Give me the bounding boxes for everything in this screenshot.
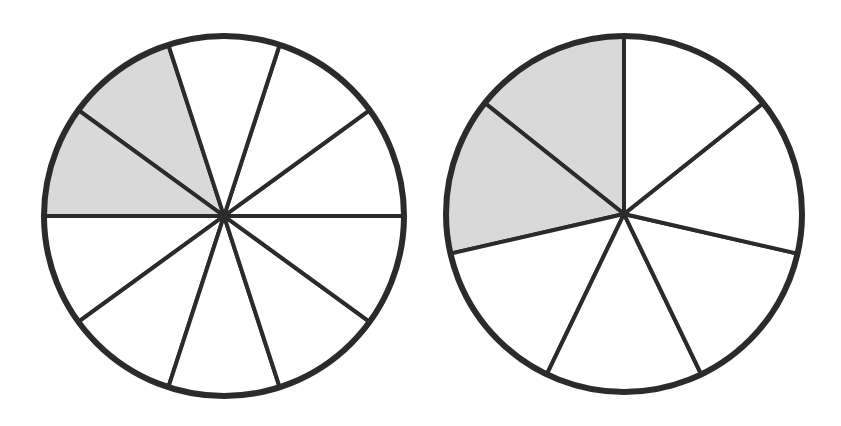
center-point xyxy=(621,211,627,217)
center-point xyxy=(221,213,227,219)
fraction-circles-diagram xyxy=(0,0,841,426)
left-fraction-circle xyxy=(44,36,404,396)
right-fraction-circle xyxy=(446,36,802,392)
